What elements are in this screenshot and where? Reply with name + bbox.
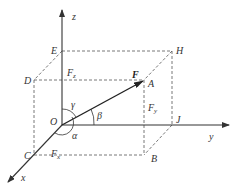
beta-arc xyxy=(91,109,94,125)
force-diagram: z y x E D H A J B C O F Fz Fy Fx γ β α xyxy=(0,0,235,195)
fy-label: Fy xyxy=(147,102,158,115)
force-label: F xyxy=(131,69,139,80)
point-J: J xyxy=(176,114,181,125)
edge-E-D xyxy=(34,51,62,80)
edge-H-A xyxy=(144,51,172,80)
point-B: B xyxy=(151,153,157,164)
point-H: H xyxy=(175,45,184,56)
beta-label: β xyxy=(96,110,102,121)
fx-label: Fx xyxy=(50,148,61,161)
gamma-arc xyxy=(62,109,76,117)
gamma-label: γ xyxy=(71,99,76,110)
point-C: C xyxy=(24,150,31,161)
y-label: y xyxy=(208,131,214,142)
origin-O: O xyxy=(50,116,57,127)
point-E: E xyxy=(50,45,57,56)
x-label: x xyxy=(20,172,26,183)
point-A: A xyxy=(147,78,155,89)
alpha-label: α xyxy=(72,130,78,141)
edge-J-B xyxy=(144,125,172,155)
fz-label: Fz xyxy=(66,67,76,80)
z-label: z xyxy=(71,11,76,22)
point-D: D xyxy=(23,75,32,86)
